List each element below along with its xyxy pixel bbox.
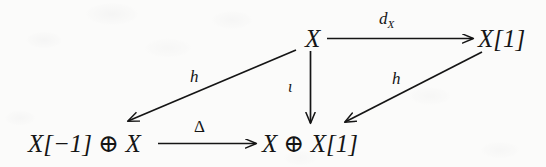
node-top-right: X[1] <box>478 26 525 51</box>
arrow-label-d-x-subscript: X <box>388 18 395 30</box>
arrow-label-delta: Δ <box>194 118 205 135</box>
arrow-label-d-x-base: d <box>379 9 388 28</box>
node-top-middle: X <box>305 26 320 51</box>
arrow-label-h-right: h <box>392 70 401 87</box>
arrow-label-iota: ι <box>288 79 292 95</box>
arrow-label-d-x: dX <box>379 10 394 30</box>
commutative-diagram: X X[1] X[−1] ⊕ X X ⊕ X[1] dX ι h h Δ <box>0 0 546 167</box>
arrow-right-diagonal <box>345 52 482 122</box>
arrow-left-diagonal <box>128 50 296 121</box>
arrow-label-h-left: h <box>190 68 199 85</box>
node-bottom-right: X ⊕ X[1] <box>262 131 358 156</box>
node-bottom-left: X[−1] ⊕ X <box>28 131 141 156</box>
